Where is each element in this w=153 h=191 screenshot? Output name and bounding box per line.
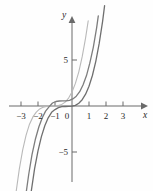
figure-container: −3 −2 −1 1 2 3 5 −5 0 x y [0,0,153,191]
curve-right-path [24,6,104,191]
y-tick-label-5: 5 [64,55,69,65]
x-axis-label: x [142,110,148,120]
x-tick-labels-group: −3 −2 −1 1 2 3 [16,111,126,121]
x-tick-label--2: −2 [33,111,43,121]
y-axis-arrow [69,16,76,23]
x-tick-label--1: −1 [50,111,60,121]
cubic-functions-graph: −3 −2 −1 1 2 3 5 −5 0 x y [0,0,153,191]
curve-middle-path [22,16,99,191]
x-axis-arrow [141,103,148,110]
curves-group [16,6,105,191]
x-tick-label-2: 2 [104,111,109,121]
axes-group [9,16,148,182]
x-tick-label-3: 3 [121,111,126,121]
origin-label: 0 [65,111,70,121]
y-axis-label: y [61,10,67,20]
y-tick-label--5: −5 [58,147,68,157]
x-tick-label--3: −3 [16,111,26,121]
x-tick-label-1: 1 [87,111,92,121]
